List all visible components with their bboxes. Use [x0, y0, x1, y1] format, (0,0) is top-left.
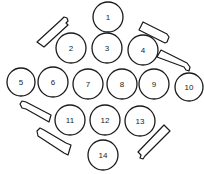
circle-5: 5 [7, 68, 35, 96]
circle-2: 2 [56, 33, 86, 63]
circle-label: 3 [105, 44, 110, 53]
circle-label: 11 [66, 116, 75, 125]
circle-label: 1 [106, 13, 111, 22]
circle-7: 7 [73, 69, 103, 99]
circle-label: 2 [69, 44, 74, 53]
circle-label: 12 [101, 116, 110, 125]
circle-label: 5 [19, 78, 24, 87]
circle-12: 12 [90, 105, 120, 135]
circle-label: 14 [99, 151, 108, 160]
circle-4: 4 [128, 35, 158, 65]
circle-6: 6 [38, 67, 68, 97]
circle-label: 13 [136, 117, 145, 126]
circle-13: 13 [125, 106, 155, 136]
tube-right [157, 50, 190, 71]
circle-10: 10 [175, 73, 203, 101]
diagram-canvas: 1 2 3 4 5 6 7 8 9 10 11 12 13 14 [0, 0, 204, 174]
tube-left [20, 101, 51, 122]
circle-label: 6 [51, 78, 56, 87]
circle-label: 4 [141, 46, 146, 55]
circle-3: 3 [92, 33, 122, 63]
circle-label: 9 [152, 80, 157, 89]
circle-9: 9 [139, 69, 169, 99]
circle-1: 1 [93, 2, 123, 32]
circle-14: 14 [88, 140, 118, 170]
circle-label: 7 [86, 80, 91, 89]
circle-label: 10 [185, 83, 194, 92]
circle-8: 8 [107, 69, 137, 99]
circle-label: 8 [120, 80, 125, 89]
circle-11: 11 [55, 105, 85, 135]
